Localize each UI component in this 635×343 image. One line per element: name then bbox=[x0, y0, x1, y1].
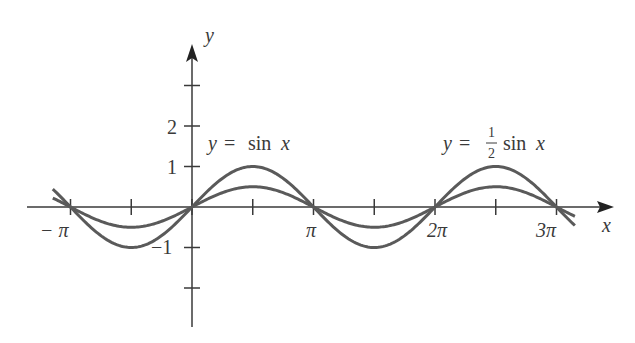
x-axis-label: x bbox=[601, 214, 611, 236]
y-tick-label-2: 2 bbox=[167, 116, 177, 138]
svg-text:1: 1 bbox=[488, 125, 495, 140]
x-tick-label-pi: π bbox=[306, 219, 317, 241]
svg-text:=: = bbox=[224, 132, 235, 154]
svg-text:x: x bbox=[280, 132, 290, 154]
annotation-sin-x: y = sin x bbox=[206, 132, 290, 155]
x-tick-label-neg-pi: − π bbox=[40, 219, 69, 241]
svg-text:sin: sin bbox=[503, 132, 526, 154]
sine-chart: y x − π π 2π 3π 2 1 −1 y = sin x y = 1 2… bbox=[0, 0, 635, 343]
svg-text:y: y bbox=[206, 132, 217, 155]
y-tick-label-1: 1 bbox=[167, 156, 177, 178]
y-axis-label: y bbox=[203, 24, 214, 47]
svg-text:2: 2 bbox=[488, 146, 495, 161]
annotation-half-sin-x: y = 1 2 sin x bbox=[441, 125, 545, 161]
x-tick-label-2pi: 2π bbox=[427, 219, 448, 241]
y-tick-label-neg-1: −1 bbox=[151, 236, 172, 258]
svg-text:=: = bbox=[459, 132, 470, 154]
svg-text:y: y bbox=[441, 132, 452, 155]
svg-text:sin: sin bbox=[248, 132, 271, 154]
svg-text:x: x bbox=[535, 132, 545, 154]
x-tick-label-3pi: 3π bbox=[535, 219, 557, 241]
